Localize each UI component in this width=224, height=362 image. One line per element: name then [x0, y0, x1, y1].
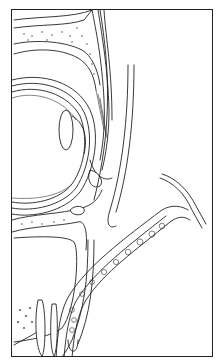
- orbital-roof-bone: [14, 10, 100, 90]
- orbital-floor: [12, 190, 102, 250]
- globe: [12, 77, 95, 215]
- eyelid: [89, 10, 112, 187]
- lens: [59, 110, 73, 150]
- retractor-instrument: [94, 10, 206, 228]
- cheek-soft-tissue: [56, 206, 190, 357]
- orbit-cross-section-illustration: [12, 10, 213, 357]
- maxillary-alveolar-bone: [14, 300, 57, 356]
- illustration-frame: [11, 9, 213, 357]
